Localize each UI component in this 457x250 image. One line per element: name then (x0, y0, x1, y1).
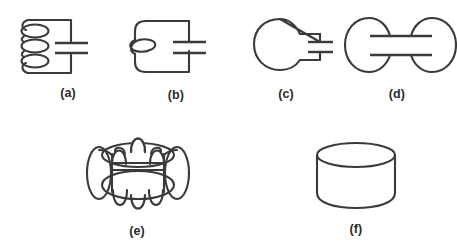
figure-canvas: (a) (b) (c) (0, 0, 457, 250)
caption-e: (e) (129, 224, 145, 238)
caption-a: (a) (60, 86, 76, 100)
caption-c: (c) (278, 87, 294, 101)
figure-sheet: (a) (b) (c) (0, 0, 457, 250)
figure-background (0, 0, 457, 250)
caption-b: (b) (168, 88, 184, 102)
caption-f: (f) (350, 222, 363, 236)
caption-d: (d) (389, 87, 405, 101)
